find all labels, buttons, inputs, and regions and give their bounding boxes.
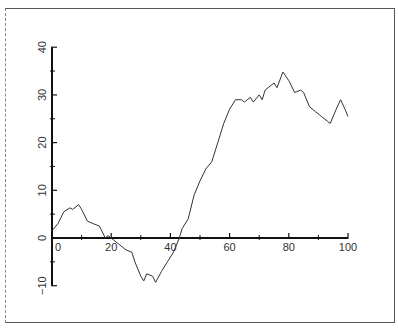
x-tick-label: 60 bbox=[223, 241, 235, 253]
x-tick-label: 80 bbox=[283, 241, 295, 253]
ticks bbox=[50, 47, 348, 286]
x-tick-label: 20 bbox=[105, 241, 117, 253]
x-tick-label: 100 bbox=[339, 241, 357, 253]
y-tick-label: 40 bbox=[36, 41, 48, 53]
y-tick-label: 30 bbox=[36, 89, 48, 101]
axes bbox=[52, 47, 348, 286]
y-tick-label: −10 bbox=[36, 276, 48, 295]
x-tick-label: 40 bbox=[164, 241, 176, 253]
y-tick-label: 0 bbox=[36, 235, 48, 241]
line-chart: −10010203040020406080100 bbox=[0, 0, 398, 328]
x-tick-label: 0 bbox=[55, 241, 61, 253]
y-tick-label: 20 bbox=[36, 136, 48, 148]
data-line bbox=[52, 72, 348, 282]
y-tick-label: 10 bbox=[36, 184, 48, 196]
tick-labels: −10010203040020406080100 bbox=[36, 41, 357, 295]
